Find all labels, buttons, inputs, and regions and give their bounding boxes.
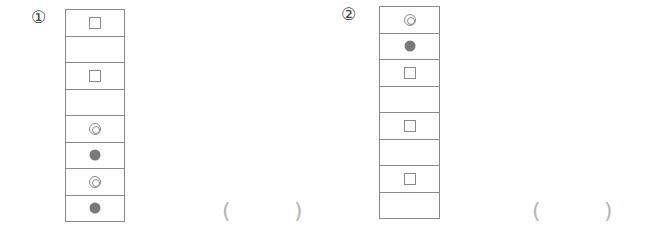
grid-cell [380, 113, 439, 140]
double-circle-icon [404, 14, 416, 26]
grid-cell [380, 193, 439, 219]
grid-cell [380, 7, 439, 34]
filled-circle-icon [90, 203, 101, 214]
grid-cell [66, 37, 124, 64]
square-icon [89, 17, 101, 29]
problem-1-answer-close-paren: ) [294, 200, 303, 222]
problem-1-answer-field[interactable] [240, 200, 292, 224]
double-circle-icon [89, 176, 101, 188]
grid-cell [66, 116, 124, 143]
problem-1-answer-open-paren: ( [222, 200, 231, 222]
problem-1-number: ① [31, 9, 46, 26]
grid-cell [380, 87, 439, 114]
problem-2-number: ② [341, 6, 356, 23]
square-icon [404, 173, 416, 185]
square-icon [89, 70, 101, 82]
problem-2-answer-open-paren: ( [532, 200, 541, 222]
grid-cell [66, 196, 124, 222]
grid-cell [380, 60, 439, 87]
square-icon [404, 120, 416, 132]
square-icon [404, 67, 416, 79]
filled-circle-icon [90, 150, 101, 161]
grid-cell [380, 140, 439, 167]
grid-cell [66, 169, 124, 196]
grid-cell [66, 63, 124, 90]
problem-2-column [379, 6, 440, 219]
problem-2-answer-close-paren: ) [604, 200, 613, 222]
problem-1-column [65, 9, 125, 222]
grid-cell [66, 143, 124, 170]
grid-cell [66, 90, 124, 117]
grid-cell [66, 10, 124, 37]
double-circle-icon [89, 123, 101, 135]
filled-circle-icon [404, 41, 415, 52]
grid-cell [380, 34, 439, 61]
grid-cell [380, 166, 439, 193]
problem-2-answer-field[interactable] [550, 200, 602, 224]
